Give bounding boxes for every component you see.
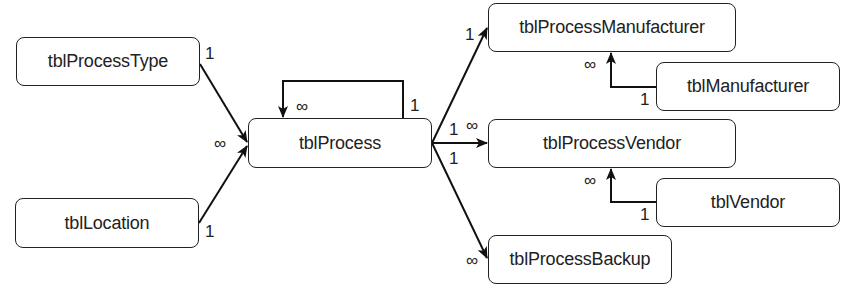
cardinality-processbackup-to-many: ∞ — [466, 252, 478, 269]
table-tblprocess[interactable]: tblProcess — [248, 118, 432, 168]
cardinality-manufacturer-many: ∞ — [584, 56, 596, 73]
link-processtype-process — [200, 64, 247, 142]
link-location-process — [199, 146, 247, 223]
cardinality-location-one: 1 — [205, 223, 214, 240]
er-diagram: tblProcessType tblLocation tblProcess tb… — [0, 0, 856, 296]
link-manufacturer-processmanufacturer — [611, 53, 656, 87]
table-tblmanufacturer[interactable]: tblManufacturer — [656, 62, 840, 111]
cardinality-processtype-one: 1 — [205, 45, 214, 62]
cardinality-process-in-many: ∞ — [214, 135, 226, 152]
cardinality-self-many: ∞ — [296, 98, 308, 115]
table-tblprocessmanufacturer[interactable]: tblProcessManufacturer — [488, 3, 736, 52]
cardinality-processmanufacturer-one: 1 — [465, 26, 474, 43]
table-tblprocessvendor[interactable]: tblProcessVendor — [488, 119, 736, 168]
table-tbllocation[interactable]: tblLocation — [15, 198, 199, 248]
table-label: tblVendor — [711, 192, 785, 213]
table-label: tblProcessType — [48, 51, 168, 72]
cardinality-self-one: 1 — [410, 97, 419, 114]
cardinality-processvendor-to-many: ∞ — [466, 117, 478, 134]
table-tblvendor[interactable]: tblVendor — [656, 178, 840, 227]
cardinality-vendor-many: ∞ — [584, 172, 596, 189]
cardinality-processvendor-from-one: 1 — [449, 121, 458, 138]
link-process-processmanufacturer — [432, 28, 487, 143]
link-vendor-processvendor — [611, 169, 656, 202]
cardinality-processbackup-from-one: 1 — [449, 150, 458, 167]
cardinality-manufacturer-one: 1 — [640, 91, 649, 108]
link-process-processbackup — [432, 143, 487, 258]
table-label: tblProcessBackup — [510, 249, 651, 270]
table-label: tblProcessVendor — [543, 133, 681, 154]
table-tblprocesstype[interactable]: tblProcessType — [16, 37, 200, 86]
table-label: tblLocation — [65, 213, 150, 234]
cardinality-vendor-one: 1 — [640, 206, 649, 223]
table-label: tblProcess — [299, 133, 381, 154]
table-label: tblManufacturer — [687, 76, 809, 97]
table-label: tblProcessManufacturer — [519, 17, 705, 38]
table-tblprocessbackup[interactable]: tblProcessBackup — [488, 235, 672, 284]
